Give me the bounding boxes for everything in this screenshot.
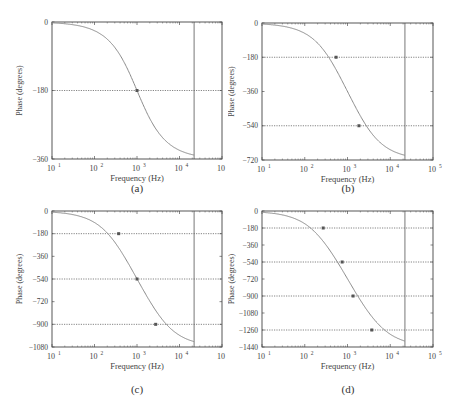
svg-text:5: 5 [439,163,442,169]
y-tick-label: −180 [33,229,49,238]
y-tick-label: −720 [33,297,49,306]
y-tick-label: 0 [254,207,258,216]
x-axis-label: Frequency (Hz) [110,361,164,371]
phase-curve [52,212,194,341]
y-tick-label: 0 [44,207,48,216]
crossing-marker [370,329,373,332]
svg-text:4: 4 [396,163,399,169]
svg-text:3: 3 [354,350,357,356]
svg-text:3: 3 [143,350,146,356]
svg-text:4: 4 [186,350,189,356]
svg-text:3: 3 [354,163,357,169]
chart-panel-b: 0−180−360−540−720101102103104105Frequenc… [228,0,456,200]
x-tick-label: 10 [90,164,98,173]
y-tick-label: 0 [44,18,48,27]
y-tick-label: −1260 [239,326,258,335]
y-tick-label: −720 [243,275,259,284]
x-tick-label: 10 [428,352,436,361]
y-axis-label: Phase (degrees) [15,65,24,116]
svg-text:2: 2 [101,350,104,356]
svg-text:1: 1 [268,163,271,169]
svg-text:4: 4 [186,162,189,168]
y-tick-label: −540 [243,121,259,130]
crossing-marker [357,124,360,127]
y-tick-label: −360 [33,252,49,261]
x-tick-label: 10 [217,352,225,361]
y-axis-label: Phase (degrees) [228,253,236,304]
x-tick-label: 10 [385,352,393,361]
plot-area-d: 0−180−360−540−720−900−1080−1260−14401011… [228,207,442,372]
x-tick-label: 10 [47,352,55,361]
x-tick-label: 10 [90,352,98,361]
x-tick-label: 10 [385,165,393,174]
x-tick-label: 10 [343,165,351,174]
svg-text:4: 4 [396,350,399,356]
svg-text:2: 2 [311,350,314,356]
svg-text:2: 2 [101,162,104,168]
y-tick-label: −360 [33,155,49,164]
chart-panel-c: 0−180−360−540−720−900−108010110210310410… [0,200,228,405]
x-tick-label: 10 [217,164,225,173]
x-tick-label: 10 [300,165,308,174]
svg-text:5: 5 [439,350,442,356]
crossing-marker [322,227,325,230]
x-tick-label: 10 [343,352,351,361]
panel-caption-c: (c) [107,383,167,395]
chart-panel-a: 0−180−360101102103104105Frequency (Hz)Ph… [0,0,228,200]
plot-area-b: 0−180−360−540−720101102103104105Frequenc… [228,19,442,185]
phase-curve [52,23,194,155]
phase-curve [262,212,405,341]
y-tick-label: −180 [33,86,49,95]
panel-caption-a: (a) [107,182,167,194]
y-tick-label: −360 [243,241,259,250]
panel-caption-b: (b) [318,182,378,194]
plot-area-c: 0−180−360−540−720−900−108010110210310410… [15,207,228,372]
chart-panel-d: 0−180−360−540−720−900−1080−1260−14401011… [228,200,456,405]
y-tick-label: −180 [243,224,259,233]
x-tick-label: 10 [175,352,183,361]
plot-area-a: 0−180−360101102103104105Frequency (Hz)Ph… [15,18,228,184]
crossing-marker [117,232,120,235]
crossing-marker [352,295,355,298]
y-tick-label: −900 [33,320,49,329]
x-tick-label: 10 [257,352,265,361]
y-tick-label: −1440 [239,343,258,352]
x-tick-label: 10 [47,164,55,173]
x-axis-label: Frequency (Hz) [321,361,375,371]
crossing-marker [341,261,344,264]
y-tick-label: −180 [243,53,259,62]
x-tick-label: 10 [132,352,140,361]
x-tick-label: 10 [257,165,265,174]
svg-text:1: 1 [268,350,271,356]
svg-text:1: 1 [58,162,61,168]
x-tick-label: 10 [300,352,308,361]
y-tick-label: −720 [243,156,259,165]
y-tick-label: −360 [243,87,259,96]
y-tick-label: −900 [243,292,259,301]
y-tick-label: −540 [33,275,49,284]
x-tick-label: 10 [175,164,183,173]
phase-curve [262,24,405,155]
panel-caption-d: (d) [318,383,378,395]
y-tick-label: −1080 [29,343,48,352]
x-tick-label: 10 [132,164,140,173]
crossing-marker [136,89,139,92]
y-axis-label: Phase (degrees) [228,66,236,117]
crossing-marker [136,278,139,281]
crossing-marker [154,323,157,326]
svg-text:2: 2 [311,163,314,169]
svg-text:3: 3 [143,162,146,168]
y-tick-label: 0 [254,19,258,28]
crossing-marker [335,56,338,59]
x-tick-label: 10 [428,165,436,174]
y-tick-label: −1080 [239,309,258,318]
y-tick-label: −540 [243,258,259,267]
y-axis-label: Phase (degrees) [15,253,24,304]
svg-text:1: 1 [58,350,61,356]
